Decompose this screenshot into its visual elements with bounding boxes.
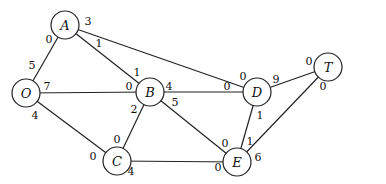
node-label: A	[59, 18, 69, 33]
edge-a-b	[65, 25, 150, 92]
node-e: E	[223, 148, 251, 176]
edge-b-e	[150, 92, 237, 162]
node-label: T	[324, 60, 334, 75]
capacity-label: 0	[240, 70, 247, 83]
node-d: D	[243, 78, 271, 106]
node-label: D	[251, 85, 263, 100]
capacity-label: 4	[128, 165, 135, 178]
capacity-label: 0	[215, 161, 222, 174]
capacity-label: 2	[131, 103, 138, 116]
node-label: B	[144, 85, 155, 100]
capacity-label: 3	[85, 15, 92, 28]
node-t: T	[314, 53, 342, 81]
node-label: E	[231, 155, 242, 170]
node-o: O	[12, 79, 40, 107]
capacity-label: 6	[255, 151, 262, 164]
capacity-label: 0	[114, 133, 121, 146]
capacity-label: 1	[134, 66, 141, 79]
capacity-label: 5	[29, 59, 36, 72]
capacity-label: 4	[166, 80, 173, 93]
capacity-label: 9	[273, 73, 280, 86]
node-b: B	[136, 78, 164, 106]
capacity-label: 0	[90, 150, 97, 163]
capacity-labels-layer: 301571040090045210040160	[29, 15, 327, 178]
capacity-label: 0	[320, 80, 327, 93]
capacity-label: 0	[306, 55, 313, 68]
capacity-label: 1	[247, 135, 254, 148]
capacity-label: 0	[126, 80, 133, 93]
nodes-layer: AOBDTCE	[12, 11, 342, 176]
edges-layer	[26, 25, 328, 162]
capacity-label: 0	[222, 137, 229, 150]
capacity-label: 0	[46, 33, 53, 46]
edge-o-c	[26, 93, 117, 161]
node-label: C	[112, 154, 122, 169]
capacity-label: 7	[44, 80, 51, 93]
node-label: O	[21, 86, 32, 101]
flow-network-diagram: AOBDTCE 301571040090045210040160	[0, 0, 386, 184]
capacity-label: 0	[224, 80, 231, 93]
node-a: A	[51, 11, 79, 39]
capacity-label: 4	[32, 109, 39, 122]
capacity-label: 5	[172, 96, 179, 109]
capacity-label: 1	[96, 37, 103, 50]
capacity-label: 1	[257, 109, 264, 122]
